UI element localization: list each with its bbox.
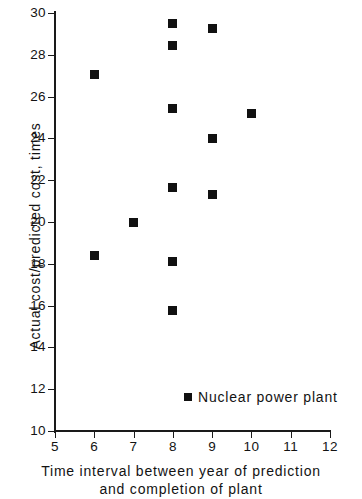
y-tick <box>48 180 55 181</box>
data-point-marker <box>129 218 138 227</box>
x-tick-label: 11 <box>276 440 306 454</box>
y-tick <box>48 13 55 14</box>
data-point-marker <box>208 24 217 33</box>
x-tick <box>251 431 252 438</box>
y-tick-label: 26 <box>6 90 46 104</box>
y-tick <box>48 306 55 307</box>
y-tick-label: 28 <box>6 48 46 62</box>
x-tick <box>134 431 135 438</box>
x-tick-label: 5 <box>40 440 70 454</box>
x-tick <box>55 431 56 438</box>
y-tick-label: 12 <box>6 382 46 396</box>
data-point-marker <box>208 190 217 199</box>
y-tick <box>48 389 55 390</box>
data-point-marker <box>168 183 177 192</box>
x-tick-label: 9 <box>197 440 227 454</box>
y-tick <box>48 431 55 432</box>
data-point-marker <box>168 41 177 50</box>
legend-marker-icon <box>184 393 192 401</box>
y-tick <box>48 138 55 139</box>
scatter-chart-figure: 1012141618202224262830 56789101112 Actua… <box>0 0 362 499</box>
data-point-marker <box>168 257 177 266</box>
x-tick <box>94 431 95 438</box>
x-tick <box>212 431 213 438</box>
y-tick <box>48 55 55 56</box>
x-tick <box>173 431 174 438</box>
x-axis-title: Time interval between year of prediction… <box>0 462 362 498</box>
data-point-marker <box>90 251 99 260</box>
data-point-marker <box>168 19 177 28</box>
x-axis-title-line2: and completion of plant <box>0 480 362 498</box>
chart-legend: Nuclear power plant <box>184 389 338 405</box>
x-tick <box>330 431 331 438</box>
x-tick-label: 12 <box>315 440 345 454</box>
data-point-marker <box>168 306 177 315</box>
x-tick-label: 8 <box>158 440 188 454</box>
data-point-marker <box>168 104 177 113</box>
y-tick-label: 10 <box>6 424 46 438</box>
y-tick <box>48 222 55 223</box>
data-point-marker <box>247 109 256 118</box>
x-tick-label: 6 <box>79 440 109 454</box>
y-axis-title: Actual cost/predicted cost, times <box>27 106 43 366</box>
x-tick-label: 10 <box>236 440 266 454</box>
x-tick <box>291 431 292 438</box>
y-tick <box>48 347 55 348</box>
x-tick-label: 7 <box>119 440 149 454</box>
y-tick-label: 30 <box>6 6 46 20</box>
legend-label: Nuclear power plant <box>198 389 338 405</box>
data-point-marker <box>208 134 217 143</box>
data-point-marker <box>90 70 99 79</box>
x-axis-title-line1: Time interval between year of prediction <box>41 463 321 479</box>
y-tick <box>48 264 55 265</box>
y-tick <box>48 97 55 98</box>
